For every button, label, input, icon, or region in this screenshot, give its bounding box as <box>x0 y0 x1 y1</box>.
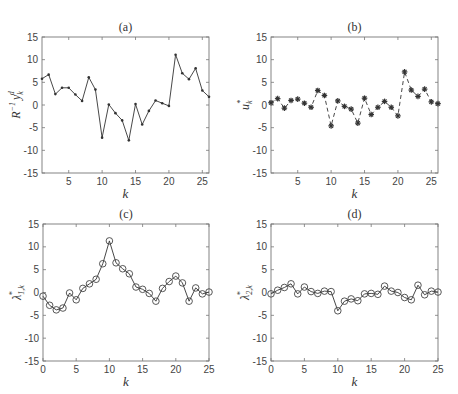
x-tick-label: 5 <box>66 176 72 187</box>
data-point-dot <box>87 76 90 79</box>
y-tick-label: -15 <box>253 356 268 367</box>
y-tick-label: 15 <box>27 32 39 43</box>
x-tick-label: 25 <box>432 364 444 375</box>
data-point-dot <box>148 110 151 113</box>
data-point-dot <box>128 139 131 142</box>
y-tick-label: 0 <box>261 100 267 111</box>
panel-title: (a) <box>119 20 132 34</box>
y-tick-label: 5 <box>261 264 267 275</box>
x-tick-label: 20 <box>170 364 182 375</box>
data-point-dot <box>194 67 197 70</box>
y-tick-label: 0 <box>261 287 267 298</box>
data-point-dot <box>101 136 104 139</box>
x-tick-label: 10 <box>104 364 116 375</box>
y-tick-label: 10 <box>27 54 39 65</box>
x-tick-label: 15 <box>130 176 142 187</box>
y-axis-label: λ2,k* <box>236 285 254 301</box>
x-tick-label: 20 <box>163 176 175 187</box>
data-point-asterisk <box>382 99 388 105</box>
data-point-asterisk <box>388 104 394 110</box>
chart-panel-a: 151050-5-10-15510152025(a)kR−1ykd <box>7 20 210 201</box>
data-point-dot <box>67 86 70 89</box>
y-tick-label: 5 <box>32 77 38 88</box>
y-tick-label: 0 <box>33 287 39 298</box>
x-tick-label: 20 <box>392 176 404 187</box>
data-point-asterisk <box>302 100 308 106</box>
data-point-dot <box>121 119 124 122</box>
data-point-asterisk <box>328 123 334 129</box>
y-tick-label: 5 <box>33 264 39 275</box>
plot-frame <box>271 224 438 361</box>
data-point-dot <box>81 100 84 103</box>
y-tick-label: -10 <box>253 333 268 344</box>
data-point-dot <box>174 53 177 56</box>
y-tick-label: -5 <box>29 122 38 133</box>
data-point-asterisk <box>335 98 341 104</box>
data-point-asterisk <box>355 120 361 126</box>
data-point-dot <box>61 86 64 89</box>
data-point-asterisk <box>295 96 301 102</box>
data-point-asterisk <box>422 86 428 92</box>
data-point-dot <box>94 88 97 91</box>
y-tick-label: -10 <box>24 145 39 156</box>
panel-title: (b) <box>348 20 362 34</box>
x-tick-label: 5 <box>73 364 79 375</box>
x-tick-label: 0 <box>268 364 274 375</box>
panel-title: (c) <box>119 207 132 221</box>
y-tick-label: 10 <box>256 241 268 252</box>
data-point-asterisk <box>348 106 354 112</box>
data-point-asterisk <box>268 100 274 106</box>
x-tick-label: 10 <box>97 176 109 187</box>
y-tick-label: 15 <box>28 219 40 230</box>
charts-canvas: 151050-5-10-15510152025(a)kR−1ykd151050-… <box>0 0 458 394</box>
x-tick-label: 5 <box>295 176 301 187</box>
x-tick-label: 15 <box>359 176 371 187</box>
y-tick-label: -5 <box>30 310 39 321</box>
data-point-asterisk <box>395 113 401 119</box>
y-tick-label: -10 <box>25 333 40 344</box>
series-line <box>42 55 209 141</box>
y-tick-label: 15 <box>256 32 268 43</box>
data-point-asterisk <box>415 94 421 100</box>
y-tick-label: 5 <box>261 77 267 88</box>
x-axis-label: k <box>352 186 358 201</box>
y-axis-label: λ1,k* <box>8 285 26 301</box>
data-point-dot <box>54 93 57 96</box>
data-point-asterisk <box>275 96 281 102</box>
x-axis-label: k <box>123 186 129 201</box>
data-point-asterisk <box>435 101 441 107</box>
chart-panel-b: 151050-5-10-15510152025(b)kuk* <box>236 20 441 201</box>
panel-title: (d) <box>348 207 362 221</box>
plot-frame <box>271 37 438 173</box>
x-tick-label: 10 <box>326 176 338 187</box>
plot-frame <box>43 224 209 361</box>
x-axis-label: k <box>123 374 129 389</box>
data-point-asterisk <box>429 99 435 105</box>
x-tick-label: 15 <box>137 364 149 375</box>
y-tick-label: -15 <box>25 356 40 367</box>
x-axis-label: k <box>352 374 358 389</box>
y-axis-label: R−1ykd <box>7 90 25 120</box>
x-tick-label: 25 <box>203 364 215 375</box>
data-point-dot <box>161 102 164 105</box>
y-tick-label: -5 <box>258 310 267 321</box>
y-tick-label: 10 <box>28 241 40 252</box>
data-point-asterisk <box>362 95 368 101</box>
plot-frame <box>42 37 209 173</box>
data-point-asterisk <box>342 104 348 110</box>
data-point-dot <box>134 103 137 106</box>
data-point-dot <box>181 72 184 75</box>
data-point-dot <box>141 123 144 126</box>
y-tick-label: -10 <box>253 145 268 156</box>
y-tick-label: 15 <box>256 219 268 230</box>
y-tick-label: -15 <box>253 168 268 179</box>
y-tick-label: -5 <box>258 122 267 133</box>
y-tick-label: 0 <box>32 100 38 111</box>
x-tick-label: 15 <box>366 364 378 375</box>
y-tick-label: 10 <box>256 54 268 65</box>
data-point-asterisk <box>288 98 294 104</box>
x-tick-label: 20 <box>399 364 411 375</box>
data-point-dot <box>108 103 111 106</box>
data-point-asterisk <box>308 104 314 110</box>
x-tick-label: 5 <box>302 364 308 375</box>
